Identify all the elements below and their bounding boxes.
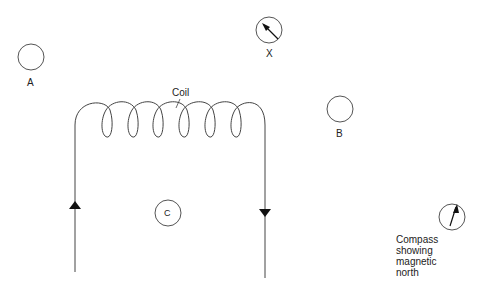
- coil-wire: [75, 102, 265, 278]
- point-a-circle: [18, 44, 44, 70]
- compass-key-text: Compass showing magnetic north: [396, 234, 438, 278]
- arrow-down-icon: [259, 209, 271, 217]
- key-compass: [439, 204, 465, 230]
- label-a: A: [27, 77, 34, 88]
- point-b-circle: [327, 96, 353, 122]
- compass-key-line1: Compass: [396, 234, 438, 245]
- label-x: X: [266, 48, 273, 59]
- coil-label: Coil: [172, 87, 189, 98]
- label-b: B: [336, 128, 343, 139]
- arrow-up-icon: [69, 201, 81, 209]
- compass-key-line2: showing: [396, 245, 438, 256]
- compass-key-line4: north: [396, 267, 438, 278]
- label-c: C: [164, 208, 171, 219]
- compass-key-line3: magnetic: [396, 256, 438, 267]
- coil-leader: [176, 99, 180, 108]
